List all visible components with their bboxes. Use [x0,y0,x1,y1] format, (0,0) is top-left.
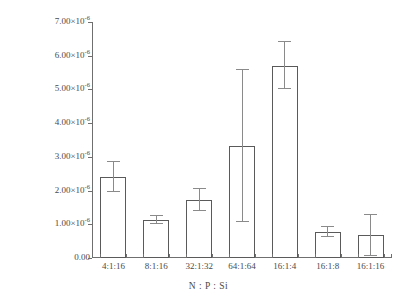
y-tick-label: 4.00×10-6 [22,118,90,127]
y-tick-label: 1.00×10-6 [22,219,90,228]
y-tick-label: 0.00 [22,253,90,262]
y-axis-tick-labels: 0.001.00×10-62.00×10-63.00×10-64.00×10-6… [22,0,90,304]
y-tick-label: 3.00×10-6 [22,152,90,161]
y-tick-label: 2.00×10-6 [22,186,90,195]
y-tick-label: 7.00×10-6 [22,17,90,26]
chart-figure: 超氧化物歧化酶/(10-7U/个细胞) 0.001.00×10-62.00×10… [0,0,417,304]
y-tick-label: 6.00×10-6 [22,51,90,60]
x-axis-tick-labels: 4:1:168:1:1632:1:3264:1:6416:1:416:1:816… [92,0,392,304]
y-tick-label: 5.00×10-6 [22,84,90,93]
x-axis-title: N : P : Si [0,281,417,291]
x-tick-label: 16:1:16 [331,262,411,271]
